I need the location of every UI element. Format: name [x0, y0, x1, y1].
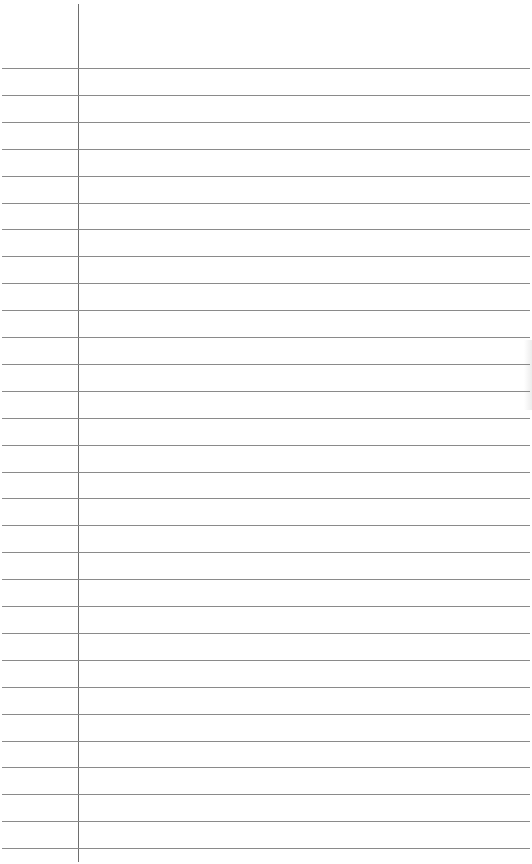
ruled-line: [2, 579, 530, 580]
margin-line: [78, 4, 79, 862]
ruled-line: [2, 418, 530, 419]
ruled-line: [2, 794, 530, 795]
ruled-line: [2, 472, 530, 473]
ruled-line: [2, 176, 530, 177]
ruled-line: [2, 310, 530, 311]
ruled-line: [2, 122, 530, 123]
ruled-line: [2, 149, 530, 150]
ruled-line: [2, 391, 530, 392]
lined-paper-sheet: [0, 0, 532, 864]
ruled-line: [2, 767, 530, 768]
ruled-line: [2, 687, 530, 688]
ruled-line: [2, 283, 530, 284]
ruled-line: [2, 256, 530, 257]
ruled-line: [2, 95, 530, 96]
ruled-line: [2, 203, 530, 204]
ruled-line: [2, 660, 530, 661]
ruled-line: [2, 68, 530, 69]
ruled-line: [2, 552, 530, 553]
scan-shadow: [524, 340, 532, 410]
ruled-line: [2, 821, 530, 822]
ruled-line: [2, 606, 530, 607]
ruled-line: [2, 633, 530, 634]
ruled-line: [2, 445, 530, 446]
ruled-line: [2, 741, 530, 742]
ruled-line: [2, 229, 530, 230]
ruled-line: [2, 337, 530, 338]
ruled-line: [2, 714, 530, 715]
ruled-line: [2, 525, 530, 526]
ruled-line: [2, 364, 530, 365]
ruled-line: [2, 498, 530, 499]
ruled-line: [2, 848, 530, 849]
